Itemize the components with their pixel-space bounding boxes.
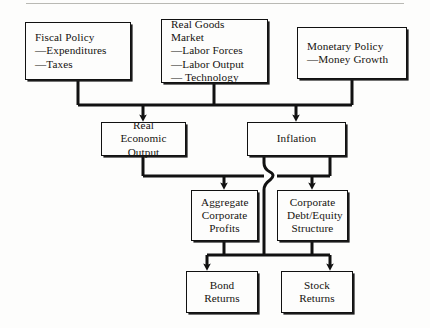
node-stock-returns: Stock Returns — [281, 271, 353, 313]
node-corporate-debt-equity-structure: Corporate Debt/Equity Structure — [277, 190, 348, 241]
node-fiscal-policy-bullet-1: —Taxes — [35, 58, 121, 71]
node-inflation-line-1: Inflation — [257, 132, 336, 145]
node-corporate-debt-equity-structure-line-1: Corporate — [287, 196, 338, 209]
node-corporate-debt-equity-structure-line-2: Debt/Equity — [287, 209, 338, 222]
edge-inflation-to-bottom-bus-with-hop — [264, 156, 273, 255]
node-real-goods-market-title: Real Goods Market — [171, 18, 258, 44]
node-corporate-debt-equity-structure-line-3: Structure — [287, 222, 338, 235]
node-fiscal-policy-title: Fiscal Policy — [35, 31, 121, 44]
node-aggregate-corporate-profits-line-3: Profits — [201, 222, 248, 235]
node-bond-returns-line-2: Returns — [196, 292, 248, 305]
node-inflation: Inflation — [247, 122, 346, 156]
node-aggregate-corporate-profits-line-2: Corporate — [201, 209, 248, 222]
node-monetary-policy-title: Monetary Policy — [307, 40, 397, 53]
node-aggregate-corporate-profits-line-1: Aggregate — [201, 196, 248, 209]
node-fiscal-policy: Fiscal Policy —Expenditures —Taxes — [25, 22, 131, 80]
node-real-economic-output: Real Economic Output — [101, 122, 186, 156]
node-bond-returns: Bond Returns — [186, 271, 258, 313]
node-real-economic-output-line-1: Real Economic — [111, 119, 176, 145]
node-monetary-policy-bullet-0: —Money Growth — [307, 53, 397, 66]
node-real-goods-market-bullet-2: — Technology — [171, 71, 258, 84]
node-stock-returns-line-2: Returns — [291, 292, 343, 305]
node-aggregate-corporate-profits: Aggregate Corporate Profits — [191, 190, 258, 241]
node-real-economic-output-line-2: Output — [111, 146, 176, 159]
node-fiscal-policy-bullet-0: —Expenditures — [35, 44, 121, 57]
node-stock-returns-line-1: Stock — [291, 279, 343, 292]
diagram-page: Fiscal Policy —Expenditures —Taxes Real … — [0, 0, 430, 328]
node-monetary-policy: Monetary Policy —Money Growth — [297, 27, 407, 79]
node-real-goods-market: Real Goods Market —Labor Forces —Labor O… — [161, 19, 268, 83]
node-real-goods-market-bullet-1: —Labor Output — [171, 58, 258, 71]
node-bond-returns-line-1: Bond — [196, 279, 248, 292]
node-real-goods-market-bullet-0: —Labor Forces — [171, 44, 258, 57]
